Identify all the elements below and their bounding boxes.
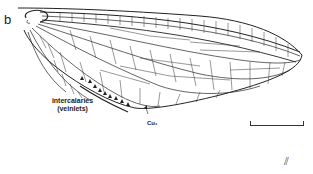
intercalaries-label: intercalaries (veinlets) bbox=[50, 97, 95, 113]
scale-bar bbox=[250, 121, 304, 126]
veinlets-text: (veinlets) bbox=[50, 105, 95, 113]
intercalaries-text: intercalaries bbox=[50, 97, 95, 105]
publisher-mark-icon: ⫽ bbox=[284, 155, 289, 168]
cu1-label: Cu₁ bbox=[147, 119, 157, 127]
wing-venation-drawing bbox=[0, 0, 313, 174]
